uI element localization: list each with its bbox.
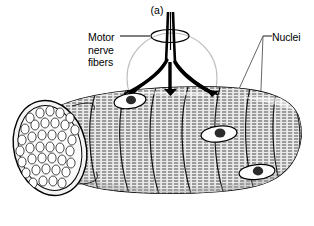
muscle-fiber-illustration (0, 0, 314, 226)
muscle-fiber-body (50, 80, 310, 200)
motor-nerve-fibers (124, 12, 219, 97)
